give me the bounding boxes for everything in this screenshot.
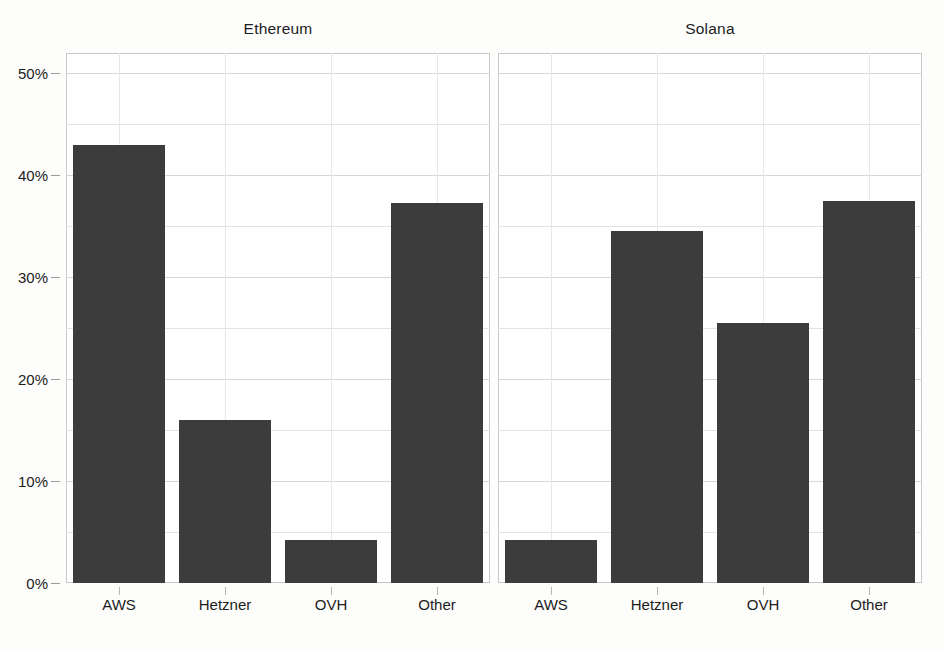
x-tick-mark bbox=[657, 587, 658, 595]
x-tick-mark bbox=[763, 587, 764, 595]
x-axis-solana: AWSHetznerOVHOther bbox=[498, 596, 922, 630]
y-tick-label: 20% bbox=[18, 371, 48, 388]
x-tick-mark bbox=[119, 587, 120, 595]
x-tick-mark bbox=[551, 587, 552, 595]
bar bbox=[285, 540, 376, 583]
y-tick-mark bbox=[51, 277, 60, 278]
x-tick-label: Hetzner bbox=[631, 596, 684, 613]
bar bbox=[505, 540, 596, 583]
y-tick-mark bbox=[51, 175, 60, 176]
panel-ethereum: Ethereum bbox=[66, 53, 490, 583]
bar bbox=[73, 145, 164, 583]
bar bbox=[823, 201, 914, 583]
x-tick-mark bbox=[225, 587, 226, 595]
bar bbox=[611, 231, 702, 583]
bar bbox=[717, 323, 808, 583]
panel-solana: Solana bbox=[498, 53, 922, 583]
panel-title-solana: Solana bbox=[498, 20, 922, 38]
y-tick-mark bbox=[51, 481, 60, 482]
y-tick-label: 10% bbox=[18, 473, 48, 490]
x-tick-label: AWS bbox=[534, 596, 568, 613]
bars-solana bbox=[498, 53, 922, 583]
bars-ethereum bbox=[66, 53, 490, 583]
bar bbox=[179, 420, 270, 583]
x-tick-label: Hetzner bbox=[199, 596, 252, 613]
x-tick-mark bbox=[437, 587, 438, 595]
chart-figure: 0%10%20%30%40%50% Ethereum Solana AWSHet… bbox=[0, 0, 945, 651]
x-tick-label: AWS bbox=[102, 596, 136, 613]
y-tick-label: 40% bbox=[18, 167, 48, 184]
x-tick-label: Other bbox=[418, 596, 456, 613]
y-tick-mark bbox=[51, 379, 60, 380]
y-axis: 0%10%20%30%40%50% bbox=[0, 53, 60, 583]
y-tick-mark bbox=[51, 583, 60, 584]
x-tick-mark bbox=[331, 587, 332, 595]
y-tick-label: 50% bbox=[18, 65, 48, 82]
x-axis-ethereum: AWSHetznerOVHOther bbox=[66, 596, 490, 630]
panel-title-ethereum: Ethereum bbox=[66, 20, 490, 38]
bar bbox=[391, 203, 482, 583]
x-tick-label: OVH bbox=[747, 596, 780, 613]
y-tick-label: 30% bbox=[18, 269, 48, 286]
x-tick-label: Other bbox=[850, 596, 888, 613]
y-tick-mark bbox=[51, 73, 60, 74]
y-tick-label: 0% bbox=[26, 575, 48, 592]
x-tick-label: OVH bbox=[315, 596, 348, 613]
x-tick-mark bbox=[869, 587, 870, 595]
